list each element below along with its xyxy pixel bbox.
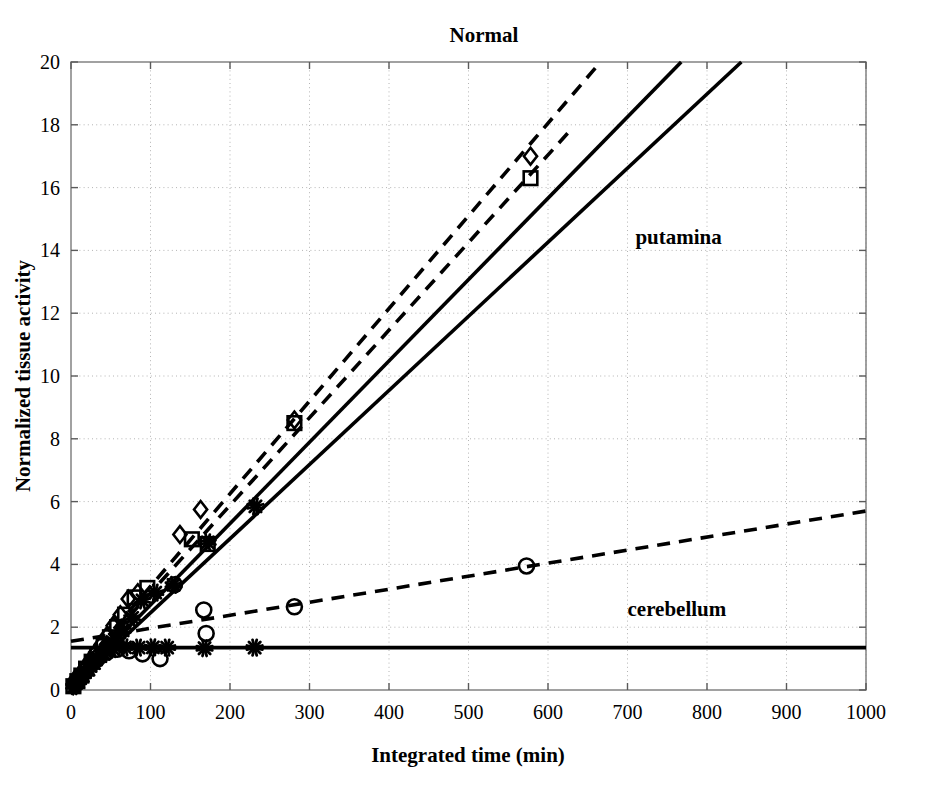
x-tick-label: 700	[613, 701, 643, 723]
y-tick-label: 2	[50, 616, 60, 638]
y-tick-label: 16	[40, 177, 60, 199]
y-tick-label: 14	[40, 239, 60, 261]
figure-background	[0, 0, 931, 790]
y-tick-label: 10	[40, 365, 60, 387]
data-point-asterisk	[148, 585, 163, 600]
x-tick-label: 300	[295, 701, 325, 723]
y-tick-label: 0	[50, 679, 60, 701]
y-tick-label: 4	[50, 553, 60, 575]
x-tick-label: 1000	[846, 701, 886, 723]
y-tick-label: 18	[40, 114, 60, 136]
x-tick-label: 500	[454, 701, 484, 723]
x-tick-label: 600	[533, 701, 563, 723]
y-tick-label: 8	[50, 428, 60, 450]
x-tick-label: 0	[66, 701, 76, 723]
chart-title: Normal	[450, 23, 519, 47]
chart-canvas: 0100200300400500600700800900100002468101…	[0, 0, 931, 790]
y-tick-label: 20	[40, 51, 60, 73]
x-tick-label: 400	[374, 701, 404, 723]
annotation-putamina: putamina	[635, 225, 722, 249]
y-tick-label: 12	[40, 302, 60, 324]
x-tick-label: 800	[692, 701, 722, 723]
x-axis-title: Integrated time (min)	[371, 743, 565, 767]
patlak-plot-figure: 0100200300400500600700800900100002468101…	[0, 0, 931, 790]
data-point-asterisk	[197, 641, 212, 656]
annotation-cerebellum: cerebellum	[628, 597, 727, 621]
x-tick-label: 200	[215, 701, 245, 723]
data-point-asterisk	[115, 623, 130, 638]
data-point-asterisk	[124, 610, 139, 625]
y-axis-title: Normalized tissue activity	[11, 259, 35, 492]
y-tick-label: 6	[50, 491, 60, 513]
x-tick-label: 100	[136, 701, 166, 723]
x-tick-label: 900	[772, 701, 802, 723]
